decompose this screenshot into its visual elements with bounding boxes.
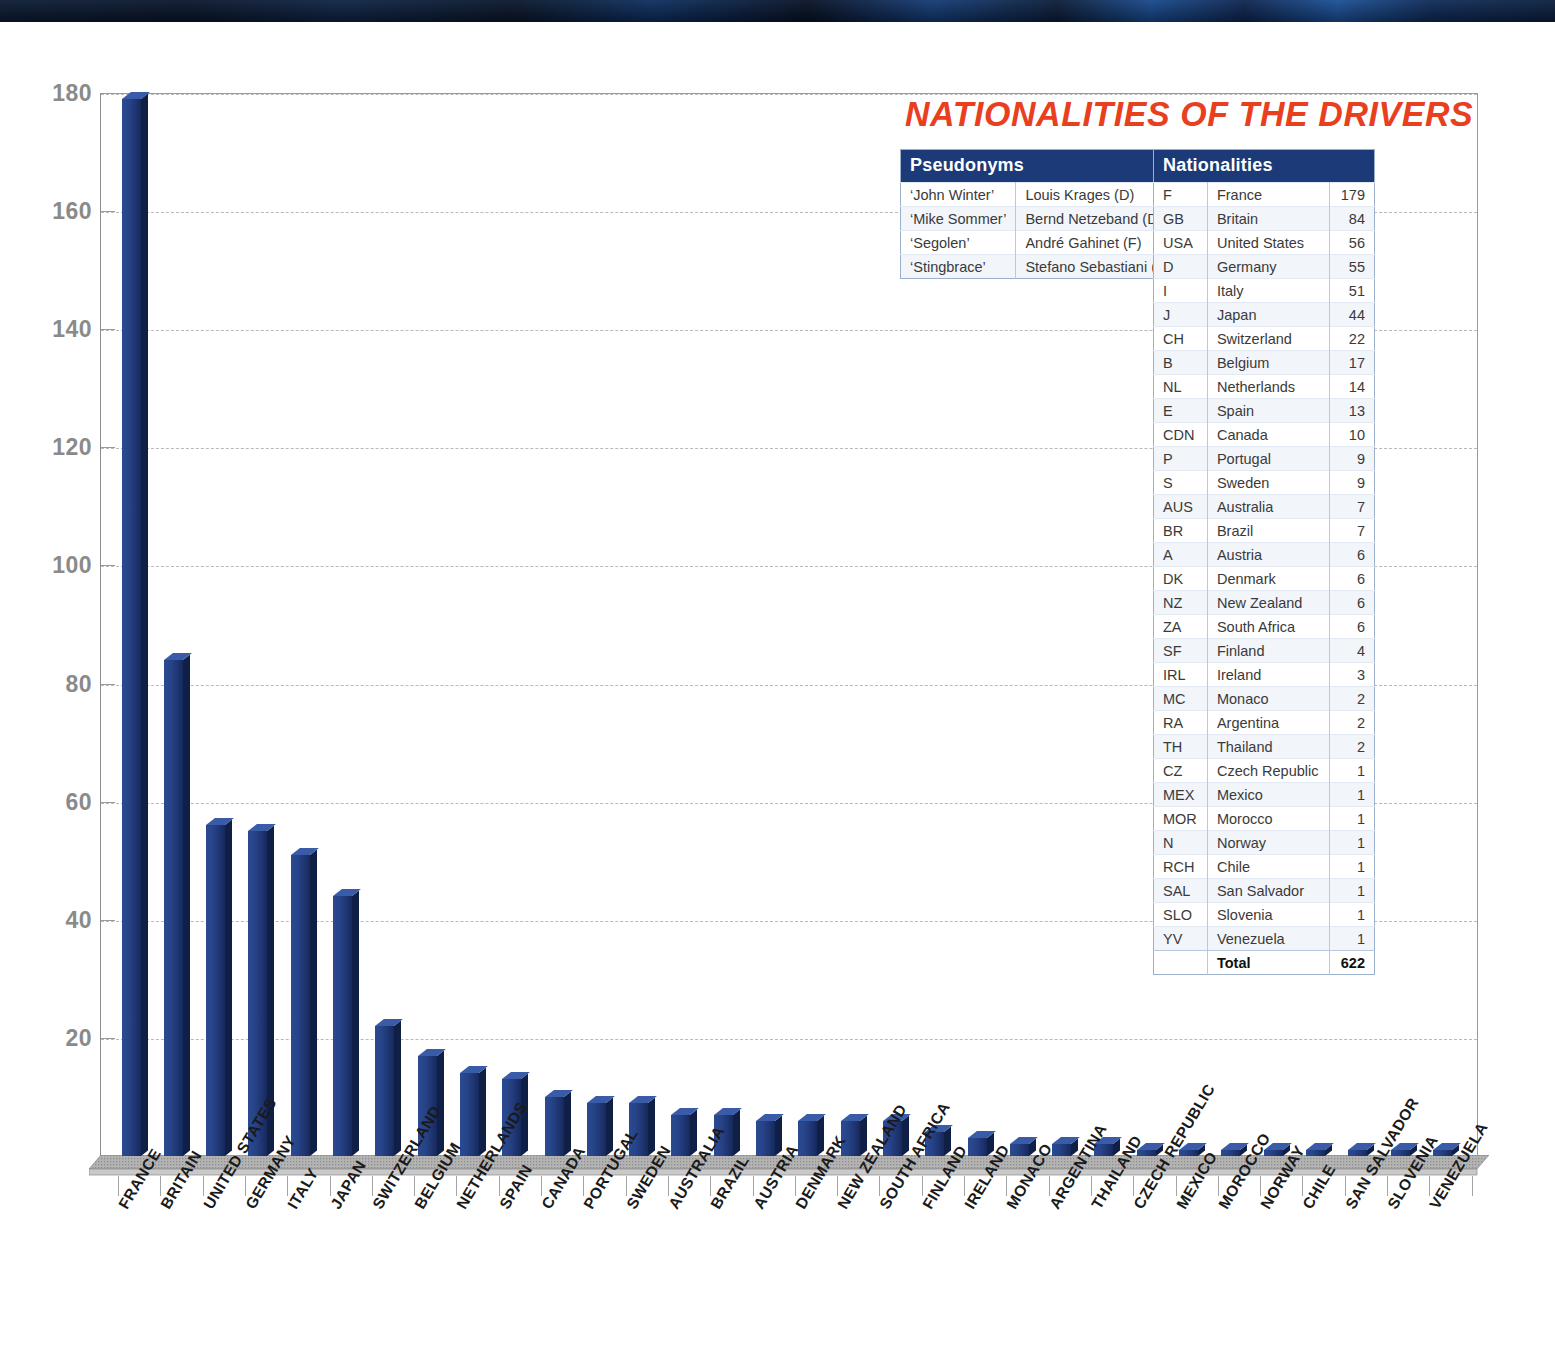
nationality-country: Morocco [1207,807,1329,831]
nationality-count: 3 [1329,663,1374,687]
nationality-count: 7 [1329,519,1374,543]
x-axis-tick [668,1176,669,1196]
table-row: SALSan Salvador1 [1154,879,1375,903]
pseudonym-alias: ‘Mike Sommer’ [901,207,1016,231]
nationality-code: YV [1154,927,1208,951]
nationality-count: 44 [1329,303,1374,327]
x-axis-category-label: JAPAN [327,1157,370,1212]
x-axis-category-label: BRITAIN [157,1148,206,1213]
nationality-code: ZA [1154,615,1208,639]
x-axis-tick [1176,1176,1177,1196]
y-axis-tick-label: 60 [30,789,92,816]
x-axis-category-label: SPAIN [496,1162,536,1213]
bar-side-face [564,1091,571,1156]
nationality-count: 1 [1329,783,1374,807]
nationality-count: 22 [1329,327,1374,351]
pseudonym-alias: ‘John Winter’ [901,183,1016,207]
nationality-country: Austria [1207,543,1329,567]
nationality-code: BR [1154,519,1208,543]
nationality-country: Switzerland [1207,327,1329,351]
nationality-country: San Salvador [1207,879,1329,903]
page-title: NATIONALITIES OF THE DRIVERS [905,94,1473,134]
x-axis-tick [372,1176,373,1196]
x-axis-tick [330,1176,331,1196]
nationality-country: Japan [1207,303,1329,327]
nationality-code: CH [1154,327,1208,351]
bar-side-face [352,891,359,1156]
table-row: NZNew Zealand6 [1154,591,1375,615]
nationality-country: France [1207,183,1329,207]
x-axis-tick [1133,1176,1134,1196]
nationality-country: South Africa [1207,615,1329,639]
table-row: FFrance179 [1154,183,1375,207]
bar [291,855,310,1156]
table-row: IItaly51 [1154,279,1375,303]
nationality-country: Thailand [1207,735,1329,759]
table-row: BRBrazil7 [1154,519,1375,543]
nationality-country: Portugal [1207,447,1329,471]
nationalities-table-header: Nationalities [1154,150,1375,183]
x-axis-tick [1049,1176,1050,1196]
bar-side-face [310,849,317,1156]
pseudonyms-table: Pseudonyms ‘John Winter’Louis Krages (D)… [900,149,1175,279]
nationality-count: 4 [1329,639,1374,663]
table-row: ZASouth Africa6 [1154,615,1375,639]
x-axis-tick [1472,1176,1473,1196]
pseudonym-alias: ‘Stingbrace’ [901,255,1016,279]
bar-side-face [479,1068,486,1156]
nationality-code: SAL [1154,879,1208,903]
y-axis-tick-label: 100 [30,552,92,579]
x-axis-tick [626,1176,627,1196]
nationality-country: United States [1207,231,1329,255]
bar [968,1138,987,1156]
x-axis-tick [1302,1176,1303,1196]
bar-side-face [225,820,232,1156]
nationality-count: 17 [1329,351,1374,375]
x-axis-category-label: CHILE [1299,1161,1339,1212]
table-total-row: Total622 [1154,951,1375,975]
y-axis-tick-label: 180 [30,80,92,107]
nationality-country: Italy [1207,279,1329,303]
table-row: PPortugal9 [1154,447,1375,471]
nationality-country: Belgium [1207,351,1329,375]
bar [333,896,352,1156]
nationality-count: 10 [1329,423,1374,447]
nationality-count: 1 [1329,879,1374,903]
nationality-code: CZ [1154,759,1208,783]
nationality-count: 1 [1329,831,1374,855]
bar-side-face [606,1097,613,1156]
nationalities-table: Nationalities FFrance179GBBritain84USAUn… [1153,149,1375,975]
x-axis-category-label: BRAZIL [707,1152,753,1212]
nationality-count: 6 [1329,615,1374,639]
nationality-country: Spain [1207,399,1329,423]
bar [671,1115,690,1156]
nationality-country: Australia [1207,495,1329,519]
table-row: ESpain13 [1154,399,1375,423]
x-axis-tick [879,1176,880,1196]
nationality-count: 6 [1329,567,1374,591]
nationality-count: 6 [1329,591,1374,615]
bar [1348,1150,1367,1156]
table-row: SSweden9 [1154,471,1375,495]
bar-side-face [141,93,148,1156]
nationality-count: 2 [1329,735,1374,759]
nationality-country: Argentina [1207,711,1329,735]
x-axis-tick [1091,1176,1092,1196]
nationality-count: 55 [1329,255,1374,279]
table-row: RAArgentina2 [1154,711,1375,735]
table-row: BBelgium17 [1154,351,1375,375]
nationality-country: Denmark [1207,567,1329,591]
bar-front-face [460,1073,479,1156]
nationality-country: Chile [1207,855,1329,879]
nationality-count: 1 [1329,807,1374,831]
nationality-code: I [1154,279,1208,303]
nationality-code: TH [1154,735,1208,759]
nationality-country: Czech Republic [1207,759,1329,783]
table-row: ‘John Winter’Louis Krages (D) [901,183,1175,207]
nationality-code: J [1154,303,1208,327]
bar-side-face [183,654,190,1156]
nationality-country: Netherlands [1207,375,1329,399]
nationality-code: RA [1154,711,1208,735]
x-axis-tick [1387,1176,1388,1196]
nationality-count: 56 [1329,231,1374,255]
